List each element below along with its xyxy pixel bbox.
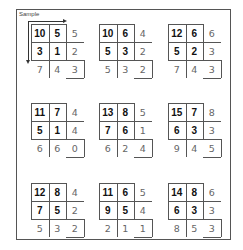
answer-cell: 4 [134,24,152,42]
grid-line [152,219,153,237]
answer-cell: 4 [49,60,67,78]
puzzle-grid: 1385761624 [99,103,152,157]
answer-cell: 1 [134,121,152,139]
given-cell: 14 [168,183,186,201]
grid-line [84,139,85,157]
puzzle-grid: 1486633853 [168,183,221,237]
given-cell: 13 [99,103,117,121]
sample-label: Sample [19,11,39,17]
answer-cell: 3 [203,201,221,219]
given-cell: 12 [168,24,186,42]
arrow-down-icon [26,60,30,64]
answer-cell: 3 [203,219,221,237]
given-cell: 5 [49,24,67,42]
grid-line [134,157,152,158]
answer-cell: 3 [49,219,67,237]
answer-cell: 4 [66,103,84,121]
answer-cell: 7 [31,60,49,78]
answer-cell: 4 [134,139,152,157]
given-cell: 3 [117,42,135,60]
answer-cell: 5 [66,24,84,42]
answer-cell: 6 [31,139,49,157]
answer-cell: 1 [134,219,152,237]
given-cell: 7 [49,103,67,121]
answer-cell: 2 [66,219,84,237]
answer-cell: 2 [66,42,84,60]
puzzle-grid: 1055312743 [31,24,84,78]
answer-cell: 5 [31,219,49,237]
answer-cell: 4 [186,60,204,78]
grid-line [66,157,84,158]
given-cell: 7 [186,103,204,121]
grid-line [203,237,221,238]
given-cell: 6 [117,24,135,42]
answer-cell: 1 [117,219,135,237]
answer-cell: 6 [49,139,67,157]
given-cell: 9 [99,201,117,219]
grid-line [221,219,222,237]
puzzle-grid: 1165954211 [99,183,152,237]
given-cell: 7 [99,121,117,139]
answer-cell: 3 [203,42,221,60]
answer-cell: 4 [134,201,152,219]
given-cell: 6 [186,24,204,42]
given-cell: 5 [168,42,186,60]
given-cell: 6 [168,201,186,219]
grid-line [134,78,152,79]
answer-cell: 7 [168,60,186,78]
answer-cell: 3 [117,60,135,78]
given-cell: 6 [168,121,186,139]
answer-cell: 5 [99,60,117,78]
arrow-right-icon [63,19,67,23]
grid-line [84,60,85,78]
given-cell: 6 [117,183,135,201]
given-cell: 5 [49,201,67,219]
sample-arrow-vertical [28,21,29,61]
given-cell: 11 [31,103,49,121]
answer-cell: 5 [134,183,152,201]
answer-cell: 0 [66,139,84,157]
puzzle-grid: 1578633945 [168,103,221,157]
answer-cell: 8 [203,103,221,121]
answer-cell: 6 [99,139,117,157]
grid-line [134,237,152,238]
grid-line [66,78,84,79]
given-cell: 6 [117,121,135,139]
grid-line [152,139,153,157]
answer-cell: 5 [203,139,221,157]
given-cell: 10 [31,24,49,42]
answer-cell: 3 [203,121,221,139]
given-cell: 7 [31,201,49,219]
given-cell: 3 [186,201,204,219]
puzzle-grid: 1266523743 [168,24,221,78]
answer-cell: 4 [66,121,84,139]
grid-line [84,219,85,237]
given-cell: 1 [49,121,67,139]
given-cell: 3 [186,121,204,139]
puzzle-grid: 1174514660 [31,103,84,157]
given-cell: 8 [117,103,135,121]
given-cell: 12 [31,183,49,201]
answer-cell: 9 [168,139,186,157]
answer-cell: 5 [186,219,204,237]
answer-cell: 2 [117,139,135,157]
answer-cell: 5 [134,103,152,121]
given-cell: 8 [49,183,67,201]
given-cell: 5 [99,42,117,60]
answer-cell: 2 [134,42,152,60]
answer-cell: 6 [203,24,221,42]
given-cell: 15 [168,103,186,121]
answer-cell: 3 [66,60,84,78]
given-cell: 3 [31,42,49,60]
grid-line [203,157,221,158]
answer-cell: 4 [66,183,84,201]
given-cell: 10 [99,24,117,42]
answer-cell: 2 [66,201,84,219]
grid-line [152,60,153,78]
given-cell: 5 [117,201,135,219]
answer-cell: 2 [99,219,117,237]
sample-arrow-horizontal [28,21,64,22]
puzzle-grid: 1064532532 [99,24,152,78]
grid-line [203,78,221,79]
puzzle-grid: 1284752532 [31,183,84,237]
